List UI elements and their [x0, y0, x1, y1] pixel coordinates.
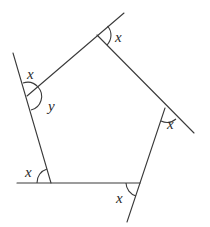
side-right-to-bottom-right-extended [127, 108, 165, 222]
label-left-x: x [26, 66, 34, 82]
side-left-to-top-extended [27, 13, 124, 96]
angle-arc-bottom-right [126, 183, 136, 196]
angle-arc-top [107, 26, 111, 45]
side-top-to-right-extended [97, 35, 194, 133]
angle-arc-left-y [31, 87, 42, 110]
label-top-x: x [114, 29, 122, 45]
angle-arc-bottom-left [37, 169, 47, 183]
pentagon-diagram: x x x y x x [0, 0, 210, 227]
label-bottom-right-x: x [115, 190, 123, 206]
label-right-x: x [166, 116, 174, 132]
label-bottom-left-x: x [24, 164, 32, 180]
label-left-y: y [46, 98, 55, 114]
angle-arc-left-x [23, 82, 38, 87]
